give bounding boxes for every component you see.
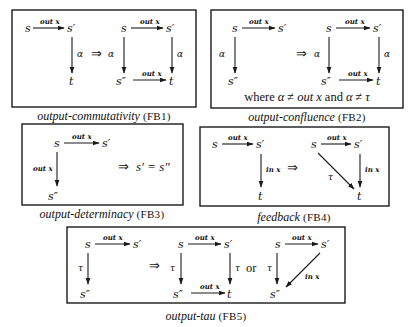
edge-label: out x xyxy=(327,133,347,142)
rule-name: output-tau xyxy=(166,309,216,323)
implies-icon: ⇒ xyxy=(91,46,102,61)
node-t: t xyxy=(258,190,263,203)
edge-label: out x xyxy=(195,233,215,242)
rule-name: feedback xyxy=(257,210,300,224)
node-s: s xyxy=(326,22,332,35)
rule-fb5: s out x s′ τ s″ ⇒ s out x s′ τ τ s″ out … xyxy=(67,227,345,323)
rule-code: (FB5) xyxy=(219,310,247,323)
arrow-diagonal-icon xyxy=(286,253,320,287)
node-s-double-prime: s″ xyxy=(321,75,332,88)
feedback-rules-diagram: s out x s′ α t ⇒ s out x s′ α α s″ out x… xyxy=(0,0,408,327)
rule-name: output-determinacy xyxy=(40,207,135,221)
edge-label: out x xyxy=(345,17,365,26)
edge-label: τ xyxy=(267,263,273,273)
edge-label: out x xyxy=(140,17,160,26)
edge-label: α xyxy=(314,49,320,59)
edge-label: out x xyxy=(348,69,368,78)
node-s-double-prime: s″ xyxy=(270,288,281,301)
edge-label: α xyxy=(177,49,183,59)
node-s-double-prime: s″ xyxy=(80,288,91,301)
edge-label: in x xyxy=(305,272,320,281)
node-s: s xyxy=(85,238,91,251)
node-s-prime: s′ xyxy=(278,22,287,35)
node-s-prime: s′ xyxy=(354,138,363,151)
rule-fb2-caption: output-confluence(FB2) xyxy=(248,110,365,124)
implies-icon: ⇒ xyxy=(287,160,298,175)
edge-label: in x xyxy=(365,165,380,174)
rule-code: (FB1) xyxy=(143,110,171,123)
edge-label: τ xyxy=(328,172,334,182)
node-s-prime: s′ xyxy=(102,137,111,150)
edge-label: out x xyxy=(200,282,220,291)
node-s-prime: s′ xyxy=(67,22,76,35)
node-s: s xyxy=(121,22,127,35)
edge-label: τ xyxy=(170,263,176,273)
edge-label: τ xyxy=(78,263,84,273)
node-s-prime: s′ xyxy=(166,22,175,35)
rule-name: output-confluence xyxy=(248,110,335,124)
edge-label: out x xyxy=(228,133,248,142)
arrow-diagonal-icon xyxy=(318,153,354,189)
implies-icon: ⇒ xyxy=(296,46,307,61)
node-s-double-prime: s″ xyxy=(48,190,59,203)
node-s-prime: s′ xyxy=(256,138,265,151)
rule-fb5-caption: output-tau(FB5) xyxy=(166,309,247,323)
edge-label: α xyxy=(108,49,114,59)
node-s: s xyxy=(275,238,281,251)
rule-fb4-caption: feedback(FB4) xyxy=(257,210,330,224)
node-s-prime: s′ xyxy=(133,238,142,251)
rule-code: (FB2) xyxy=(338,111,366,124)
rule-fb4: s out x s′ in x t ⇒ s out x s′ in x τ t … xyxy=(200,127,389,224)
node-s: s xyxy=(54,137,60,150)
conclusion: s′=s″ xyxy=(136,159,170,174)
node-s-prime: s′ xyxy=(373,22,382,35)
rule-fb1-caption: output-commutativity(FB1) xyxy=(37,109,170,123)
edge-label: out x xyxy=(103,233,123,242)
rule-code: (FB4) xyxy=(303,211,331,224)
node-s: s xyxy=(232,22,238,35)
node-t: t xyxy=(69,75,74,88)
rule-code: (FB3) xyxy=(137,208,165,221)
edge-label: out x xyxy=(40,17,60,26)
edge-label: α xyxy=(384,49,390,59)
node-t: t xyxy=(169,75,174,88)
node-s-prime: s′ xyxy=(321,238,330,251)
node-s: s xyxy=(178,238,184,251)
node-s-double-prime: s″ xyxy=(228,75,239,88)
rule-fb3-caption: output-determinacy(FB3) xyxy=(40,207,165,221)
rule-name: output-commutativity xyxy=(37,109,140,123)
node-t: t xyxy=(357,190,362,203)
edge-label: α xyxy=(219,49,225,59)
node-t: t xyxy=(376,75,381,88)
rule-fb1: s out x s′ α t ⇒ s out x s′ α α s″ out x… xyxy=(12,10,196,123)
node-s: s xyxy=(212,138,218,151)
node-t: t xyxy=(227,288,232,301)
implies-icon: ⇒ xyxy=(118,159,129,174)
node-s-double-prime: s″ xyxy=(116,75,127,88)
rule-fb2: s out x s′ α s″ ⇒ s out x s′ α α s″ out … xyxy=(211,10,403,124)
node-s-double-prime: s″ xyxy=(173,288,184,301)
edge-label: out x xyxy=(72,132,92,141)
edge-label: out x xyxy=(249,17,269,26)
edge-label: α xyxy=(77,49,83,59)
node-s-prime: s′ xyxy=(224,238,233,251)
side-condition: whereα≠out xandα≠τ xyxy=(244,90,370,104)
edge-label: τ xyxy=(235,263,241,273)
edge-label: out x xyxy=(142,69,162,78)
rule-fb3: s out x s′ out x s″ ⇒ s′=s″ output-deter… xyxy=(22,124,183,221)
implies-icon: ⇒ xyxy=(149,258,160,273)
edge-label: in x xyxy=(266,165,281,174)
edge-label: out x xyxy=(33,164,53,173)
or-text: or xyxy=(246,261,257,275)
node-s: s xyxy=(25,22,31,35)
node-s: s xyxy=(311,138,317,151)
edge-label: out x xyxy=(292,233,312,242)
